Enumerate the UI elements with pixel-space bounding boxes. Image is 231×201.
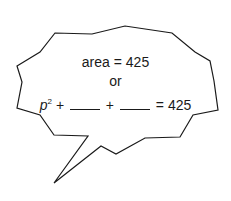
blank-1 <box>70 97 100 110</box>
plus-sign: + <box>56 97 64 113</box>
or-label: or <box>0 73 231 89</box>
speech-bubble-diagram: area = 425 or p2 + + = 425 <box>0 0 231 201</box>
area-equation: area = 425 <box>0 54 231 70</box>
sum-equation: p2 + + = 425 <box>0 94 231 113</box>
equals-rhs: = 425 <box>156 97 191 113</box>
blank-2 <box>120 97 150 110</box>
variable-p: p <box>40 97 48 113</box>
plus-sign: + <box>106 97 114 113</box>
exponent: 2 <box>48 97 52 106</box>
